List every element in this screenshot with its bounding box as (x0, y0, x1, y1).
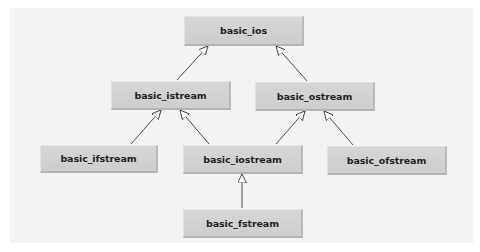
node-basic-ios: basic_ios (184, 16, 304, 46)
node-basic-ifstream: basic_ifstream (40, 145, 158, 173)
node-basic-istream: basic_istream (111, 81, 231, 110)
node-basic-ofstream: basic_ofstream (327, 146, 447, 175)
edge-iostream-to-ostream (276, 111, 305, 144)
edge-istream-to-ios (177, 46, 208, 80)
node-basic-ostream: basic_ostream (255, 82, 375, 111)
edge-ofstream-to-ostream (324, 111, 353, 145)
edge-ifstream-to-istream (131, 110, 161, 144)
node-basic-fstream: basic_fstream (183, 209, 303, 238)
edge-iostream-to-istream (180, 110, 209, 144)
edge-ostream-to-ios (276, 46, 307, 81)
node-basic-iostream: basic_iostream (183, 145, 303, 174)
